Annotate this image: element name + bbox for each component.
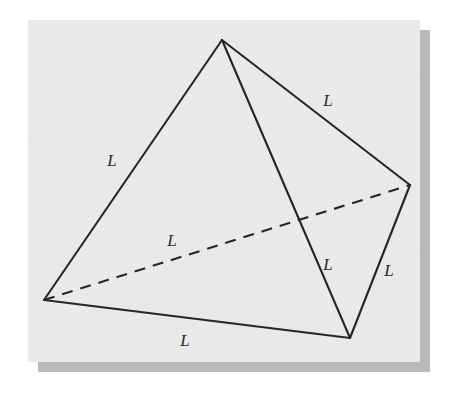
tetrahedron-figure: L L L L L L — [0, 0, 451, 394]
label-upper-right-edge: L — [322, 91, 332, 110]
label-hidden-edge: L — [166, 231, 176, 250]
label-interior-edge: L — [322, 255, 332, 274]
label-right-edge: L — [383, 261, 393, 280]
label-bottom-edge: L — [179, 331, 189, 350]
figure-page: L L L L L L — [0, 0, 451, 394]
label-upper-left-edge: L — [106, 151, 116, 170]
